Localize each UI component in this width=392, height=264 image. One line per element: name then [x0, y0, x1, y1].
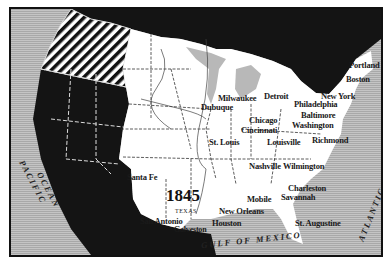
city-richmond: Richmond	[312, 136, 348, 145]
city-galveston: Galveston	[174, 226, 206, 234]
city-houston: Houston	[212, 219, 241, 228]
city-dubuque: Dubuque	[201, 103, 233, 112]
city-new-orleans: New Orleans	[219, 207, 264, 216]
city-san-antonio: San Antonio	[140, 217, 182, 226]
year-label: 1845	[166, 187, 200, 204]
city-wilmington: Wilmington	[283, 162, 324, 171]
city-chicago: Chicago	[249, 116, 277, 125]
map-frame: Portland Boston New York Philadelphia Ba…	[9, 7, 383, 257]
city-st-augustine: St. Augustine	[295, 219, 341, 228]
city-santa-fe: Santa Fe	[127, 173, 157, 182]
city-detroit: Detroit	[264, 92, 288, 101]
city-washington: Washington	[292, 121, 333, 130]
city-philadelphia: Philadelphia	[294, 100, 337, 109]
city-portland: Portland	[349, 61, 380, 70]
city-cincinnati: Cincinnati	[241, 126, 277, 135]
city-nashville: Nashville	[249, 162, 281, 171]
texas-label: TEXAS	[175, 208, 197, 214]
city-boston: Boston	[346, 75, 370, 84]
city-st-louis: St. Louis	[209, 138, 239, 147]
city-baltimore: Baltimore	[301, 111, 335, 120]
city-louisville: Louisville	[267, 138, 300, 147]
city-mobile: Mobile	[247, 195, 271, 204]
city-savannah: Savannah	[281, 193, 315, 202]
